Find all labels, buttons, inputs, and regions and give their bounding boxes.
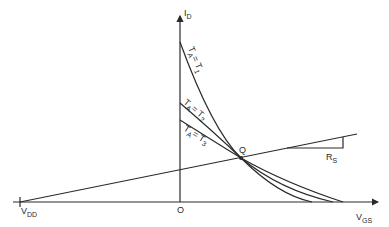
svg-text:TA= T1: TA= T1	[184, 45, 205, 75]
rs-label: RS	[326, 152, 338, 164]
diagram-canvas: ID VGS O VDD TA= T1 TA= T2 TA= T3 Q RS	[0, 0, 389, 227]
q-point	[239, 156, 243, 160]
y-axis-label: ID	[184, 8, 192, 20]
svg-text:TA= T3: TA= T3	[181, 123, 210, 148]
vdd-label: VDD	[21, 206, 37, 218]
curve-t3	[180, 120, 343, 202]
q-label: Q	[239, 145, 246, 155]
x-axis-label: VGS	[356, 212, 372, 224]
load-line	[20, 134, 357, 202]
curve-t1-label: TA= T1	[184, 45, 205, 75]
curve-t3-label: TA= T3	[181, 123, 210, 148]
origin-label: O	[177, 205, 184, 215]
